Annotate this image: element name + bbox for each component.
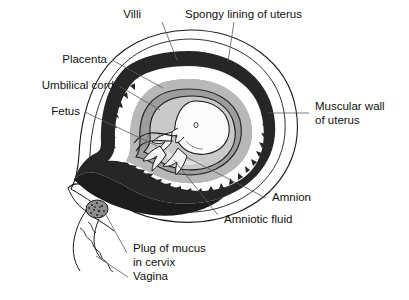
- label-amniotic-fluid: Amniotic fluid: [224, 213, 292, 225]
- label-plug-of-mucus-line1: Plug of mucus: [133, 242, 206, 254]
- label-amnion: Amnion: [272, 191, 311, 203]
- anatomical-diagram: Villi Spongy lining of uterus Placenta U…: [0, 0, 409, 300]
- label-muscular-wall-of-uterus-line2: of uterus: [315, 114, 360, 126]
- label-fetus: Fetus: [51, 105, 80, 117]
- uterus-cross-section-figure: Villi Spongy lining of uterus Placenta U…: [0, 0, 409, 300]
- label-vagina: Vagina: [133, 270, 169, 282]
- label-umbilical-cord: Umbilical cord: [42, 79, 114, 91]
- label-plug-of-mucus-line2: in cervix: [133, 256, 175, 268]
- label-placenta: Placenta: [62, 53, 107, 65]
- label-muscular-wall-of-uterus-line1: Muscular wall: [315, 100, 385, 112]
- label-villi: Villi: [123, 8, 141, 20]
- label-spongy-lining-of-uterus: Spongy lining of uterus: [185, 8, 302, 20]
